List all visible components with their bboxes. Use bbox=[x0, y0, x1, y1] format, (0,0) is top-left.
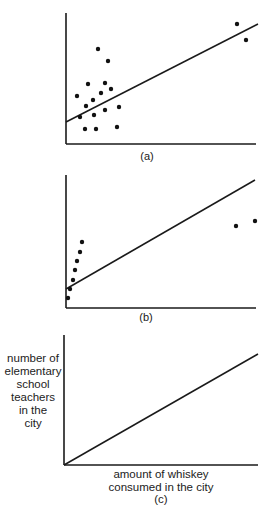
panel-a-caption: (a) bbox=[132, 150, 162, 162]
data-point bbox=[83, 127, 87, 131]
data-point bbox=[73, 268, 77, 272]
data-point bbox=[91, 98, 95, 102]
panel-b-caption: (b) bbox=[131, 311, 161, 323]
panel-c bbox=[64, 335, 258, 465]
data-point bbox=[106, 59, 110, 63]
data-point bbox=[96, 47, 100, 51]
data-point bbox=[94, 127, 98, 131]
data-point bbox=[117, 105, 121, 109]
panel-c-line bbox=[64, 354, 258, 465]
data-point bbox=[109, 87, 113, 91]
panel-a-regression-line bbox=[66, 24, 258, 122]
data-point bbox=[86, 82, 90, 86]
ylabel-line: number of bbox=[0, 352, 66, 365]
data-point bbox=[99, 91, 103, 95]
xlabel-line: amount of whiskey bbox=[64, 468, 258, 481]
ylabel-line: elementary bbox=[0, 365, 66, 378]
ylabel-line: in the bbox=[0, 404, 66, 417]
panel-c-caption: (c) bbox=[64, 493, 258, 506]
data-point bbox=[66, 296, 70, 300]
panel-c-x-axis-label: amount of whiskey consumed in the city (… bbox=[64, 468, 258, 506]
data-point bbox=[235, 22, 239, 26]
data-point bbox=[84, 104, 88, 108]
data-point bbox=[68, 287, 72, 291]
data-point bbox=[75, 94, 79, 98]
data-point bbox=[115, 125, 119, 129]
data-point bbox=[103, 108, 107, 112]
panel-b-regression-line bbox=[66, 180, 255, 289]
data-point bbox=[234, 224, 238, 228]
panel-c-y-axis-label: number of elementary school teachers in … bbox=[0, 352, 66, 430]
data-point bbox=[253, 219, 257, 223]
data-point bbox=[75, 259, 79, 263]
panel-b-points bbox=[66, 219, 257, 300]
panel-b bbox=[66, 175, 257, 308]
panel-a bbox=[66, 13, 258, 144]
ylabel-line: teachers bbox=[0, 391, 66, 404]
data-point bbox=[78, 115, 82, 119]
ylabel-line: school bbox=[0, 378, 66, 391]
data-point bbox=[92, 113, 96, 117]
data-point bbox=[103, 81, 107, 85]
ylabel-line: city bbox=[0, 417, 66, 430]
data-point bbox=[80, 240, 84, 244]
panel-a-points bbox=[75, 22, 248, 131]
data-point bbox=[244, 38, 248, 42]
data-point bbox=[78, 250, 82, 254]
data-point bbox=[71, 278, 75, 282]
